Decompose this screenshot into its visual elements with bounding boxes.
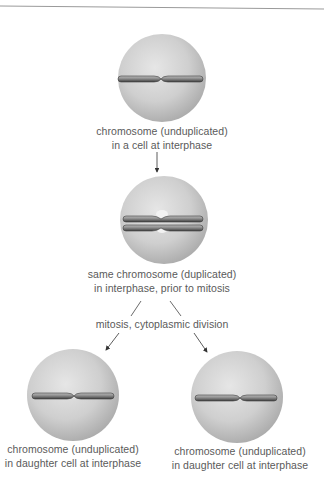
label-cell-daughter-right: chromosome (unduplicated) in daughter ce…	[140, 444, 324, 472]
cell-duplicated	[120, 176, 208, 264]
label-line: chromosome (unduplicated)	[62, 124, 262, 138]
cell-daughter-right	[191, 351, 283, 443]
mitosis-diagram	[0, 0, 324, 487]
label-line: in daughter cell at interphase	[140, 458, 324, 472]
label-cell-interphase: chromosome (unduplicated) in a cell at i…	[62, 124, 262, 152]
process-label: mitosis, cytoplasmic division	[62, 317, 262, 331]
arrow-to-left-daughter	[106, 333, 119, 350]
chromosome-unduplicated	[195, 395, 277, 401]
label-line: same chromosome (duplicated)	[52, 267, 272, 281]
cell-interphase	[118, 34, 206, 122]
label-line: in interphase, prior to mitosis	[52, 281, 272, 295]
split-line-right	[170, 301, 181, 316]
label-line: in a cell at interphase	[62, 138, 262, 152]
label-cell-duplicated: same chromosome (duplicated) in interpha…	[52, 267, 272, 295]
cell-daughter-left	[27, 349, 119, 441]
split-line-left	[131, 301, 141, 316]
label-line: chromosome (unduplicated)	[140, 444, 324, 458]
top-rule	[0, 6, 324, 9]
arrow-to-right-daughter	[194, 333, 207, 352]
